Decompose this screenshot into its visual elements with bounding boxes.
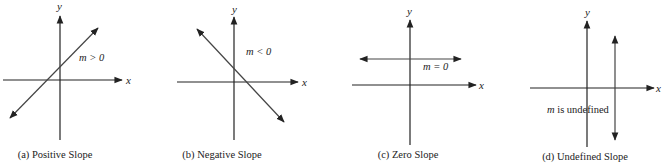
y-axis-label: y xyxy=(406,5,412,17)
positive-slope-line xyxy=(10,28,98,118)
slope-annotation: m = 0 xyxy=(423,61,449,72)
y-axis-label: y xyxy=(231,3,237,15)
negative-slope-line xyxy=(197,29,284,122)
panel-caption: (b) Negative Slope xyxy=(182,149,262,161)
panel-negative-slope: y x m < 0 (b) Negative Slope xyxy=(177,3,307,161)
panel-caption: (c) Zero Slope xyxy=(378,149,439,161)
slope-annotation-rest: is undefined xyxy=(555,104,610,115)
y-axis-label: y xyxy=(56,0,62,12)
slope-annotation: m is undefined xyxy=(547,104,610,115)
x-axis-label: x xyxy=(125,74,131,86)
slope-annotation: m > 0 xyxy=(79,52,105,63)
x-axis-label: x xyxy=(478,79,484,91)
slope-annotation: m < 0 xyxy=(246,46,272,57)
panel-caption: (a) Positive Slope xyxy=(18,149,93,161)
x-axis-label: x xyxy=(301,76,307,88)
panel-zero-slope: y x m = 0 (c) Zero Slope xyxy=(352,5,484,161)
panel-positive-slope: y x m > 0 (a) Positive Slope xyxy=(3,0,131,161)
slope-diagrams: y x m > 0 (a) Positive Slope y x m < 0 (… xyxy=(0,0,663,165)
x-axis-label: x xyxy=(655,82,661,94)
panel-caption: (d) Undefined Slope xyxy=(542,151,628,163)
panel-undefined-slope: y x m is undefined (d) Undefined Slope xyxy=(530,6,661,163)
y-axis-label: y xyxy=(584,6,590,18)
